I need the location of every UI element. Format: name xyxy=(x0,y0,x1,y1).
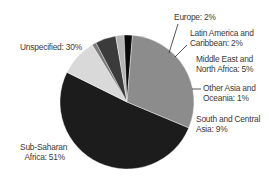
label-latin-america: Latin America and Caribbean: 2% xyxy=(190,29,254,48)
label-europe: Europe: 2% xyxy=(174,13,216,23)
pie-slices xyxy=(60,35,194,169)
label-other-asia-line2: Oceania: 1% xyxy=(203,94,256,104)
leader-latin-america xyxy=(175,45,187,57)
label-south-central-asia-line2: Asia: 9% xyxy=(196,125,260,135)
label-sub-saharan-africa: Sub-Saharan Africa: 51% xyxy=(20,143,65,162)
label-latin-america-line2: Caribbean: 2% xyxy=(190,39,254,49)
label-middle-east: Middle East and North Africa: 5% xyxy=(196,55,253,74)
label-sub-saharan-line2: Africa: 51% xyxy=(20,153,65,163)
label-south-central-asia: South and Central Asia: 9% xyxy=(196,115,260,134)
label-other-asia: Other Asia and Oceania: 1% xyxy=(203,84,256,103)
label-middle-east-line2: North Africa: 5% xyxy=(196,65,253,75)
label-unspecified: Unspecified: 30% xyxy=(20,43,82,53)
leader-europe xyxy=(169,24,178,53)
